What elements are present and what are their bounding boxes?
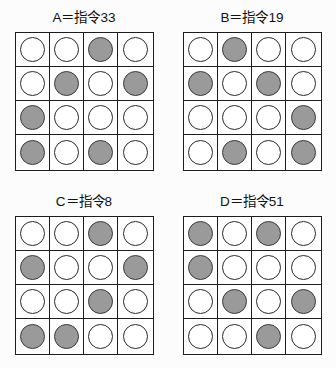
grid-cell[interactable] <box>84 101 118 135</box>
grid-cell[interactable] <box>84 285 118 319</box>
grid-cell[interactable] <box>286 101 320 135</box>
grid-cell[interactable] <box>252 33 286 67</box>
grid-cell[interactable] <box>118 101 152 135</box>
grid-cell[interactable] <box>118 67 152 101</box>
grid-cell[interactable] <box>286 217 320 251</box>
grid-cell[interactable] <box>50 251 84 285</box>
empty-circle-icon <box>20 37 45 62</box>
filled-circle-icon <box>291 105 316 130</box>
filled-circle-icon <box>188 221 213 246</box>
filled-circle-icon <box>54 324 79 349</box>
grid-cell[interactable] <box>118 285 152 319</box>
grid-cell[interactable] <box>184 217 218 251</box>
grid-cell[interactable] <box>184 319 218 353</box>
empty-circle-icon <box>54 140 79 165</box>
grid-cell[interactable] <box>184 101 218 135</box>
grid-cell[interactable] <box>286 251 320 285</box>
grid-cell[interactable] <box>16 217 50 251</box>
grid-cell[interactable] <box>16 285 50 319</box>
grid-cell[interactable] <box>252 67 286 101</box>
panel-title-c: C＝指令8 <box>56 195 112 209</box>
grid-cell[interactable] <box>286 319 320 353</box>
empty-circle-icon <box>256 140 281 165</box>
filled-circle-icon <box>88 37 113 62</box>
grid-cell[interactable] <box>218 251 252 285</box>
grid-cell[interactable] <box>252 101 286 135</box>
grid-cell[interactable] <box>184 33 218 67</box>
empty-circle-icon <box>54 105 79 130</box>
empty-circle-icon <box>291 255 316 280</box>
grid-cell[interactable] <box>252 285 286 319</box>
grid-cell[interactable] <box>84 251 118 285</box>
filled-circle-icon <box>20 105 45 130</box>
grid-cell[interactable] <box>84 67 118 101</box>
filled-circle-icon <box>188 71 213 96</box>
grid-cell[interactable] <box>50 285 84 319</box>
empty-circle-icon <box>88 71 113 96</box>
grid-cell[interactable] <box>118 251 152 285</box>
filled-circle-icon <box>222 37 247 62</box>
grid-cell[interactable] <box>84 319 118 353</box>
grid-cell[interactable] <box>218 285 252 319</box>
filled-circle-icon <box>20 255 45 280</box>
grid-cell[interactable] <box>252 319 286 353</box>
grid-cell[interactable] <box>118 33 152 67</box>
grid-cell[interactable] <box>118 319 152 353</box>
grid-cell[interactable] <box>184 251 218 285</box>
empty-circle-icon <box>88 324 113 349</box>
grid-a <box>15 32 154 171</box>
empty-circle-icon <box>291 221 316 246</box>
empty-circle-icon <box>222 255 247 280</box>
grid-cell[interactable] <box>184 285 218 319</box>
grid-cell[interactable] <box>50 135 84 169</box>
empty-circle-icon <box>222 324 247 349</box>
grid-cell[interactable] <box>184 135 218 169</box>
grid-cell[interactable] <box>16 33 50 67</box>
grid-cell[interactable] <box>16 319 50 353</box>
empty-circle-icon <box>54 37 79 62</box>
grid-cell[interactable] <box>286 33 320 67</box>
filled-circle-icon <box>291 140 316 165</box>
panel-d: D＝指令51 <box>168 184 336 368</box>
grid-cell[interactable] <box>252 251 286 285</box>
filled-circle-icon <box>256 324 281 349</box>
grid-cell[interactable] <box>218 33 252 67</box>
grid-cell[interactable] <box>286 135 320 169</box>
empty-circle-icon <box>188 140 213 165</box>
filled-circle-icon <box>188 255 213 280</box>
grid-cell[interactable] <box>50 33 84 67</box>
filled-circle-icon <box>123 71 148 96</box>
grid-cell[interactable] <box>286 67 320 101</box>
grid-cell[interactable] <box>84 217 118 251</box>
grid-cell[interactable] <box>16 101 50 135</box>
grid-cell[interactable] <box>16 67 50 101</box>
grid-cell[interactable] <box>84 33 118 67</box>
grid-cell[interactable] <box>252 217 286 251</box>
grid-cell[interactable] <box>286 285 320 319</box>
grid-cell[interactable] <box>184 67 218 101</box>
grid-cell[interactable] <box>252 135 286 169</box>
grid-cell[interactable] <box>218 135 252 169</box>
grid-cell[interactable] <box>50 101 84 135</box>
panel-title-a: A＝指令33 <box>52 11 115 25</box>
grid-cell[interactable] <box>218 101 252 135</box>
empty-circle-icon <box>256 105 281 130</box>
empty-circle-icon <box>88 105 113 130</box>
empty-circle-icon <box>222 105 247 130</box>
empty-circle-icon <box>256 289 281 314</box>
grid-cell[interactable] <box>118 135 152 169</box>
grid-cell[interactable] <box>84 135 118 169</box>
filled-circle-icon <box>256 221 281 246</box>
grid-cell[interactable] <box>16 251 50 285</box>
grid-cell[interactable] <box>218 67 252 101</box>
grid-cell[interactable] <box>218 319 252 353</box>
grid-cell[interactable] <box>50 67 84 101</box>
empty-circle-icon <box>222 221 247 246</box>
grid-cell[interactable] <box>16 135 50 169</box>
grid-cell[interactable] <box>50 319 84 353</box>
grid-cell[interactable] <box>218 217 252 251</box>
empty-circle-icon <box>54 221 79 246</box>
grid-cell[interactable] <box>118 217 152 251</box>
grid-cell[interactable] <box>50 217 84 251</box>
empty-circle-icon <box>54 255 79 280</box>
